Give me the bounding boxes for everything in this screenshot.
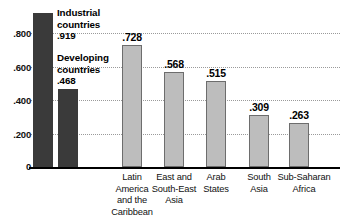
value-label-latin-america-and-the-caribbean: .728 — [112, 32, 152, 43]
bar-chart: .800 .600 .400 .200 0 Industrial countri… — [0, 0, 349, 224]
annotation-developing-countries: Developing countries .468 — [57, 52, 109, 87]
x-label-latin-line4: Caribbean — [98, 207, 166, 219]
value-label-south-asia: .309 — [239, 102, 279, 113]
bar-sub-saharan-africa — [289, 123, 309, 167]
value-label-arab-states: .515 — [196, 68, 236, 79]
bar-latin-america-and-the-caribbean — [122, 45, 142, 167]
bar-east-and-south-east-asia — [164, 72, 184, 167]
annotation-developing-line2: countries — [57, 64, 109, 76]
y-tick-0: 0 — [1, 162, 31, 172]
annotation-industrial-line1: Industrial — [57, 7, 100, 19]
annotation-industrial-line2: countries — [57, 19, 100, 31]
bar-south-asia — [249, 115, 269, 167]
x-axis-line — [29, 167, 340, 169]
y-tick-800: .800 — [1, 29, 31, 39]
value-label-sub-saharan-africa: .263 — [279, 110, 319, 121]
bar-arab-states — [206, 81, 226, 167]
y-tick-600: .600 — [1, 63, 31, 73]
x-label-sub-saharan-line1: Sub-Saharan — [267, 172, 341, 184]
value-label-east-and-south-east-asia: .568 — [154, 59, 194, 70]
annotation-developing-value: .468 — [57, 75, 109, 87]
plot-area: .800 .600 .400 .200 0 Industrial countri… — [0, 0, 349, 224]
bar-developing-countries — [58, 89, 78, 167]
y-tick-400: .400 — [1, 96, 31, 106]
annotation-industrial-countries: Industrial countries .919 — [57, 7, 100, 42]
x-label-sub-saharan-line2: Africa — [267, 184, 341, 196]
y-tick-200: .200 — [1, 130, 31, 140]
x-label-sub-saharan-africa: Sub-Saharan Africa — [267, 172, 341, 195]
bar-industrial-countries — [33, 13, 53, 167]
annotation-industrial-value: .919 — [57, 30, 100, 42]
x-label-east-line3: Asia — [140, 195, 208, 207]
annotation-developing-line1: Developing — [57, 52, 109, 64]
